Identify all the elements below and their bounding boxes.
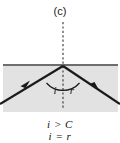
condition-angle-equality: i = r [0,130,120,142]
incidence-angle-label: i [50,85,60,96]
denser-medium-region [3,66,118,112]
total-internal-reflection-figure: (c) i r i > C i = r [0,0,120,143]
reflection-angle-label: r [67,85,77,96]
condition-angle-greater-than-critical: i > C [0,118,120,130]
